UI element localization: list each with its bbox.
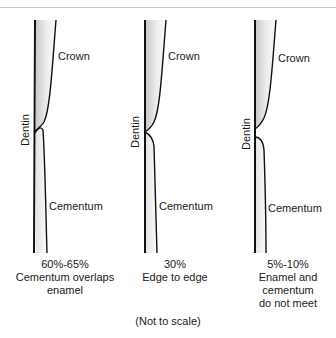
dentin-label: Dentin: [240, 118, 252, 150]
dentin-label: Dentin: [19, 114, 31, 146]
caption-edge-to-edge: 30% Edge to edge: [120, 258, 230, 284]
caption-line: Cementum overlaps: [10, 271, 120, 284]
panel-gap: [255, 20, 276, 253]
cementum-label: Cementum: [159, 200, 213, 213]
caption-line: do not meet: [235, 297, 336, 310]
cementum-label: Cementum: [268, 202, 322, 215]
crown-label: Crown: [278, 52, 310, 65]
panel-edge-to-edge: [145, 20, 166, 253]
caption-line: Edge to edge: [120, 271, 230, 284]
dentin-label: Dentin: [129, 116, 141, 148]
panel-overlap: [34, 20, 56, 253]
caption-line: Enamel and: [235, 271, 336, 284]
caption-overlap: 60%-65% Cementum overlaps enamel: [10, 258, 120, 297]
caption-percent: 5%-10%: [235, 258, 336, 271]
caption-line: cementum: [235, 284, 336, 297]
caption-percent: 60%-65%: [10, 258, 120, 271]
caption-gap: 5%-10% Enamel and cementum do not meet: [235, 258, 336, 310]
dentin-line: [34, 20, 35, 253]
crown-label: Crown: [58, 50, 90, 63]
caption-percent: 30%: [120, 258, 230, 271]
crown-label: Crown: [168, 50, 200, 63]
cementum-label: Cementum: [49, 200, 103, 213]
caption-line: enamel: [10, 284, 120, 297]
not-to-scale-note: (Not to scale): [0, 315, 336, 327]
